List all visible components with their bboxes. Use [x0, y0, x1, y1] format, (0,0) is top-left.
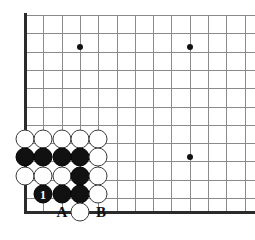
stone-white	[53, 167, 72, 186]
stone-black	[53, 148, 72, 167]
stone-black: 1	[34, 185, 53, 204]
stone-black	[16, 148, 35, 167]
grid-line-horizontal	[25, 107, 255, 108]
point-label-b: B	[96, 205, 106, 220]
stone-white	[53, 130, 72, 149]
stone-white	[16, 167, 35, 186]
stone-move-number: 1	[35, 186, 52, 203]
grid-line-vertical	[117, 15, 118, 212]
point-label-a: A	[57, 205, 68, 220]
grid-line-horizontal	[25, 52, 255, 53]
stone-white	[16, 130, 35, 149]
stone-white	[89, 185, 108, 204]
stone-white	[34, 167, 53, 186]
stone-black	[53, 185, 72, 204]
grid-line-vertical	[208, 15, 209, 212]
grid-line-vertical	[135, 15, 136, 212]
grid-line-horizontal	[25, 15, 255, 16]
grid-line-vertical	[153, 15, 154, 212]
grid-line-vertical	[226, 15, 227, 212]
stone-white	[89, 148, 108, 167]
grid-line-horizontal	[25, 88, 255, 89]
stone-white	[89, 167, 108, 186]
stone-white	[89, 130, 108, 149]
stone-white	[71, 203, 90, 222]
stone-black	[71, 148, 90, 167]
stone-black	[34, 148, 53, 167]
grid-line-horizontal	[25, 125, 255, 126]
star-point	[77, 44, 83, 50]
grid-line-horizontal	[25, 33, 255, 34]
stone-black	[71, 185, 90, 204]
grid-line-horizontal	[25, 70, 255, 71]
star-point	[187, 154, 193, 160]
grid-line-vertical	[245, 15, 246, 212]
star-point	[187, 44, 193, 50]
grid-line-vertical	[171, 15, 172, 212]
go-board-diagram: 1AB	[0, 0, 255, 240]
stone-black	[71, 167, 90, 186]
stone-white	[34, 130, 53, 149]
stone-white	[71, 130, 90, 149]
